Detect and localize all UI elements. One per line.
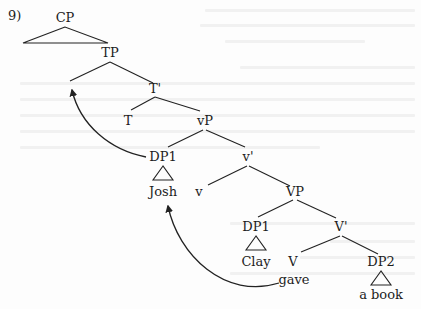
edge-vp-dp1 — [168, 130, 203, 147]
node-tp: TP — [101, 45, 119, 60]
dp1-josh-triangle — [153, 166, 173, 180]
edge-vbar-v — [208, 166, 247, 185]
page: 9) CP TP T' T vP DP1 Josh v' v VP DP1 Cl… — [0, 0, 421, 309]
leaf-gave: gave — [278, 272, 309, 287]
node-v-bar-little: v' — [242, 149, 254, 164]
edge-Vbar-dp2 — [342, 236, 378, 254]
node-v-big: V — [287, 254, 298, 269]
node-t-bar: T' — [149, 81, 161, 96]
edge-VP-dp1 — [258, 200, 293, 217]
movement-arrow-dp1-to-spec-tp — [72, 90, 146, 157]
edge-tp-spec — [70, 62, 110, 81]
node-dp1-spec-vp: DP1 — [149, 149, 176, 164]
edge-Vbar-V — [301, 236, 340, 252]
node-t: T — [124, 113, 133, 128]
syntax-tree: 9) CP TP T' T vP DP1 Josh v' v VP DP1 Cl… — [0, 0, 421, 309]
dp2-triangle — [371, 271, 391, 285]
edge-VP-Vbar — [297, 200, 336, 218]
leaf-clay: Clay — [241, 254, 271, 269]
edge-tbar-t — [131, 97, 155, 110]
edge-tp-tbar — [110, 62, 153, 83]
node-v-little: v — [194, 184, 203, 199]
cp-triangle — [23, 27, 108, 43]
node-vp-little: vP — [196, 113, 213, 128]
edge-vp-vbar — [206, 130, 245, 147]
node-dp2: DP2 — [367, 254, 394, 269]
node-vp-big: VP — [285, 184, 304, 199]
leaf-josh: Josh — [147, 184, 178, 199]
node-dp1-spec-VP: DP1 — [242, 219, 269, 234]
example-number: 9) — [8, 8, 21, 23]
node-v-bar-big: V' — [334, 219, 348, 234]
edge-vbar-VP — [249, 166, 290, 186]
leaf-a-book: a book — [359, 287, 403, 302]
edge-tbar-vp — [155, 97, 200, 111]
dp1-clay-triangle — [246, 236, 266, 250]
node-cp: CP — [56, 10, 75, 25]
